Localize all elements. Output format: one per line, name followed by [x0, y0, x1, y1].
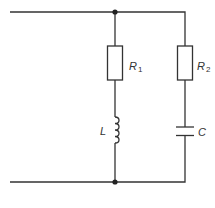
label-r1-sub: 1: [138, 65, 143, 74]
label-c: C: [198, 126, 206, 138]
label-r2-sub: 2: [206, 65, 211, 74]
bottom-rail-wire: [10, 145, 185, 182]
label-r1-main: R: [129, 60, 137, 72]
label-l: L: [100, 125, 106, 137]
resistor-r1: [108, 46, 123, 80]
circuit-diagram: R1 R2 L C: [0, 0, 215, 208]
junction-dot-bottom: [112, 179, 117, 184]
label-r2: R2: [197, 60, 211, 74]
label-r1: R1: [129, 60, 143, 74]
label-r2-main: R: [197, 60, 205, 72]
inductor-l: [115, 117, 119, 143]
resistor-r2: [178, 46, 193, 80]
junction-dot-top: [112, 9, 117, 14]
top-rail-wire: [10, 12, 185, 46]
